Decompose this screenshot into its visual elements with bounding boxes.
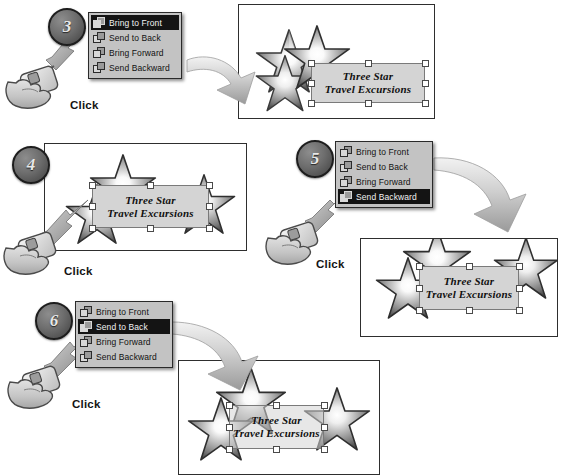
bring-to-front-icon xyxy=(80,306,92,318)
click-label-5: Click xyxy=(316,258,345,270)
menu-item-label: Bring Forward xyxy=(96,337,151,347)
textbox-line-1: Three Star xyxy=(125,194,176,207)
step-number-badge-5: 5 xyxy=(296,140,334,178)
textbox-line-2: Travel Excursions xyxy=(325,83,411,96)
bring-forward-icon xyxy=(80,336,92,348)
menu-item-label: Bring to Front xyxy=(96,307,149,317)
textbox-line-2: Travel Excursions xyxy=(426,288,512,301)
menu-item-send-backward[interactable]: Send Backward xyxy=(78,349,170,364)
bring-to-front-icon xyxy=(93,17,105,29)
textbox-line-1: Three Star xyxy=(251,414,302,427)
step-number-badge-6: 6 xyxy=(35,302,73,340)
menu-item-label: Send Backward xyxy=(109,63,170,73)
context-menu-3[interactable]: Bring to Front Send to Back Bring Forwar… xyxy=(88,12,182,79)
textbox-line-1: Three Star xyxy=(444,275,495,288)
context-menu-6[interactable]: Bring to Front Send to Back Bring Forwar… xyxy=(75,301,173,368)
textbox-6[interactable]: Three Star Travel Excursions xyxy=(229,405,324,449)
bring-forward-icon xyxy=(93,47,105,59)
send-to-back-icon xyxy=(340,161,352,173)
menu-item-bring-to-front[interactable]: Bring to Front xyxy=(338,144,430,159)
bring-to-front-icon xyxy=(340,146,352,158)
click-label-4: Click xyxy=(64,265,93,277)
menu-item-label: Send to Back xyxy=(96,322,148,332)
send-backward-icon xyxy=(80,351,92,363)
menu-item-send-backward[interactable]: Send Backward xyxy=(338,189,430,204)
tutorial-illustration: 3 Bring to Front Send to Back Bring Forw… xyxy=(0,0,563,476)
menu-item-label: Bring Forward xyxy=(356,177,411,187)
send-backward-icon xyxy=(340,191,352,203)
menu-item-label: Send to Back xyxy=(356,162,408,172)
send-to-back-icon xyxy=(93,32,105,44)
textbox-4[interactable]: Three Star Travel Excursions xyxy=(92,185,209,228)
step-number-badge-4: 4 xyxy=(12,146,50,184)
menu-item-send-backward[interactable]: Send Backward xyxy=(91,60,179,75)
menu-item-label: Send Backward xyxy=(96,352,157,362)
textbox-line-2: Travel Excursions xyxy=(233,427,319,440)
send-to-back-icon xyxy=(80,321,92,333)
menu-item-bring-forward[interactable]: Bring Forward xyxy=(91,45,179,60)
menu-item-bring-to-front[interactable]: Bring to Front xyxy=(78,304,170,319)
menu-item-bring-forward[interactable]: Bring Forward xyxy=(78,334,170,349)
menu-item-send-to-back[interactable]: Send to Back xyxy=(91,30,179,45)
send-backward-icon xyxy=(93,62,105,74)
context-menu-5[interactable]: Bring to Front Send to Back Bring Forwar… xyxy=(335,141,433,208)
result-panel-5: Three Star Travel Excursions xyxy=(360,238,558,337)
menu-item-send-to-back[interactable]: Send to Back xyxy=(78,319,170,334)
flow-arrow-5 xyxy=(432,152,530,238)
textbox-line-1: Three Star xyxy=(343,70,394,83)
click-label-6: Click xyxy=(72,398,101,410)
mouse-hand-icon-6 xyxy=(4,362,78,414)
result-panel-3: Three Star Travel Excursions xyxy=(238,4,435,119)
mouse-hand-icon-3 xyxy=(2,62,76,114)
menu-item-send-to-back[interactable]: Send to Back xyxy=(338,159,430,174)
textbox-3[interactable]: Three Star Travel Excursions xyxy=(311,63,425,103)
menu-item-label: Send Backward xyxy=(356,192,417,202)
menu-item-label: Bring to Front xyxy=(109,18,162,28)
bring-forward-icon xyxy=(340,176,352,188)
menu-item-label: Bring to Front xyxy=(356,147,409,157)
menu-item-bring-to-front[interactable]: Bring to Front xyxy=(91,15,179,30)
textbox-5[interactable]: Three Star Travel Excursions xyxy=(419,266,519,310)
textbox-line-2: Travel Excursions xyxy=(107,207,193,220)
menu-item-label: Bring Forward xyxy=(109,48,164,58)
step-number-badge-3: 3 xyxy=(48,8,86,46)
menu-item-label: Send to Back xyxy=(109,33,161,43)
mouse-hand-icon-4 xyxy=(0,228,74,280)
click-label-3: Click xyxy=(70,99,99,111)
flow-arrow-6 xyxy=(170,318,262,394)
flow-arrow-3 xyxy=(185,42,265,112)
menu-item-bring-forward[interactable]: Bring Forward xyxy=(338,174,430,189)
